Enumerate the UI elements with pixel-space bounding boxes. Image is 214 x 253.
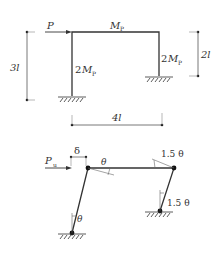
- theta-col-left: θ: [77, 214, 83, 224]
- svg-text:2: 2: [161, 53, 167, 64]
- theta-beam-left: θ: [101, 157, 107, 167]
- svg-text:2: 2: [75, 64, 81, 75]
- theta-col-right: 1.5 θ: [167, 198, 190, 208]
- svg-text:P: P: [120, 25, 124, 32]
- portal-frame-diagram: 3l P M P 2 M P 2 M P 2: [0, 0, 214, 253]
- load-p-label: P: [46, 20, 54, 31]
- fixed-support-left: [58, 97, 86, 102]
- svg-text:P: P: [92, 70, 96, 77]
- frame-elevation: 3l P M P 2 M P 2 M P 2: [10, 20, 211, 126]
- sway-label: δ: [74, 145, 80, 156]
- right-height-label: 2l: [200, 49, 211, 60]
- load-pu-label: P: [44, 155, 52, 166]
- collapse-mechanism: P u δ θ 1.5 θ θ 1.5 θ: [44, 145, 190, 239]
- span-label: 4l: [111, 112, 122, 123]
- svg-text:u: u: [53, 161, 57, 168]
- left-height-label: 3l: [10, 62, 20, 73]
- fixed-support-right: [145, 77, 173, 82]
- svg-text:P: P: [178, 59, 182, 66]
- theta-beam-right: 1.5 θ: [161, 149, 184, 159]
